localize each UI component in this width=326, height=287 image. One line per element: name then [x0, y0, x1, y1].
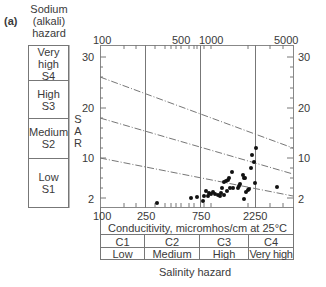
salinity-code-c1: C1 — [101, 236, 144, 248]
salinity-name-high: High — [200, 248, 248, 260]
salinity-name-medium: Medium — [145, 248, 199, 260]
bottom-tick-250: 250 — [137, 210, 155, 222]
x-axis-label: Conducitivity, micromhos/cm at 25°C — [108, 222, 287, 234]
salinity-name-very-high: Very high — [249, 248, 293, 260]
salinity-hazard-title: Salinity hazard — [145, 266, 245, 278]
salinity-code-c2: C2 — [145, 236, 199, 248]
salinity-code-c3: C3 — [200, 236, 248, 248]
bottom-tick-100: 100 — [93, 210, 111, 222]
bottom-tick-750: 750 — [192, 210, 210, 222]
data-points — [155, 146, 279, 205]
bottom-tick-2250: 2250 — [243, 210, 267, 222]
salinity-code-c4: C4 — [249, 236, 293, 248]
salinity-name-low: Low — [101, 248, 144, 260]
